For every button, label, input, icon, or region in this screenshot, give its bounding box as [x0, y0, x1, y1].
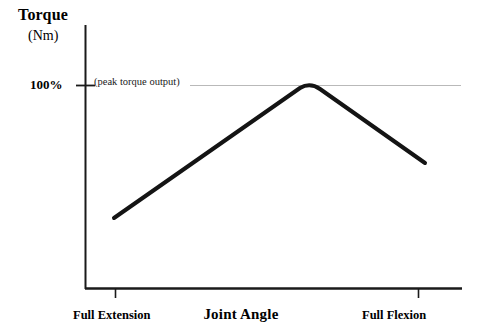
x-axis-title: Joint Angle [0, 306, 482, 323]
chart-plot-area [0, 0, 482, 334]
y-tick-label-100-percent: 100% [30, 77, 63, 93]
y-axis-title: Torque [18, 6, 68, 24]
peak-torque-annotation: (peak torque output) [94, 76, 180, 87]
torque-curve [114, 85, 425, 218]
y-axis-units-label: (Nm) [28, 28, 58, 44]
torque-joint-angle-chart: Torque (Nm) 100% (peak torque output) Fu… [0, 0, 482, 334]
